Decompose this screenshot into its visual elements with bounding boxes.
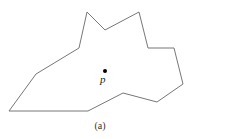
point-label: p: [100, 73, 106, 85]
polygon-diagram: [0, 0, 243, 139]
figure-caption: (a): [0, 120, 200, 131]
star-shaped-polygon: [9, 12, 183, 111]
